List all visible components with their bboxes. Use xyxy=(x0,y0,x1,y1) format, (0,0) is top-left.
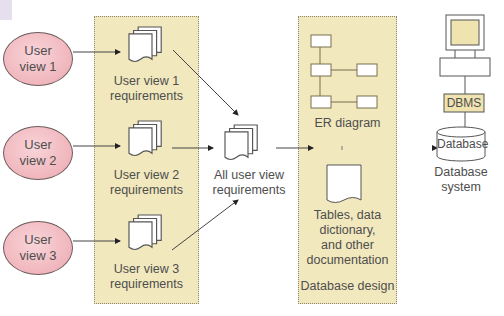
database-system-caption: Database system xyxy=(430,165,492,195)
documentation-doc-icon xyxy=(327,165,361,203)
dbms-label: DBMS xyxy=(444,96,484,111)
arrow-req3-merged xyxy=(172,200,238,250)
er-diagram-label: ER diagram xyxy=(298,116,397,131)
merged-requirements-doc-icon xyxy=(225,125,257,160)
requirements-1-doc-icon xyxy=(129,27,161,62)
database-label: Database xyxy=(437,137,485,152)
requirements-3-doc-icon xyxy=(129,215,161,250)
requirements-2-label: User view 2 requirements xyxy=(95,168,198,198)
er-diagram-icon xyxy=(311,35,377,108)
diagram-graphics xyxy=(0,0,504,316)
requirements-1-label: User view 1 requirements xyxy=(95,74,198,104)
requirements-3-label: User view 3 requirements xyxy=(95,262,198,292)
database-design-title: Database design xyxy=(298,279,397,294)
documentation-label: Tables, data dictionary, and other docum… xyxy=(298,208,397,268)
merged-requirements-label: All user view requirements xyxy=(200,168,298,198)
computer-icon xyxy=(440,15,490,128)
requirements-2-doc-icon xyxy=(129,121,161,156)
